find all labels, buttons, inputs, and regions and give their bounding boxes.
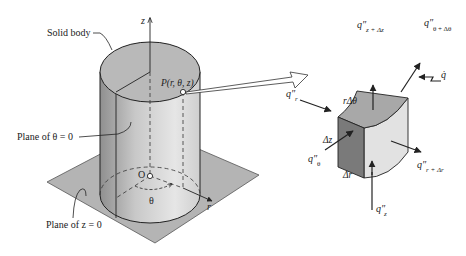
dr-label: Δr [342, 170, 353, 180]
dz-label: Δz [322, 135, 333, 145]
q-r-sub: r [295, 95, 298, 103]
q-theta-sub: θ [317, 160, 321, 168]
q-z-sub: z [383, 210, 387, 218]
q-gen-arrow [419, 77, 441, 81]
cylindrical-coordinates-diagram: z r θ O P(r, θ, z) Solid body Plane of θ… [0, 0, 466, 256]
solid-body-label: Solid body [47, 27, 91, 38]
q-r-dr-sub: r + Δr [426, 166, 444, 174]
q-z-dz-sub: z + Δz [365, 26, 384, 34]
q-gen-label: q̇ [441, 69, 446, 80]
element-front-face [338, 117, 364, 178]
q-theta-dtheta-sub: θ + Δθ [433, 25, 452, 33]
plane-theta0-label: Plane of θ = 0 [17, 131, 73, 142]
q-r-arrow [300, 100, 331, 111]
origin-label: O [138, 169, 145, 180]
plane-z0-label: Plane of z = 0 [46, 219, 102, 230]
q-theta-dtheta-arrow [401, 63, 420, 92]
theta-label: θ [149, 195, 154, 206]
solid-body-leader [93, 33, 112, 50]
point-p [180, 89, 185, 94]
origin-point [147, 173, 152, 178]
axis-r-label: r [207, 201, 211, 212]
r-dtheta-label: rΔθ [343, 96, 357, 106]
point-p-label: P(r, θ, z) [160, 78, 194, 89]
axis-z-label: z [140, 15, 145, 26]
